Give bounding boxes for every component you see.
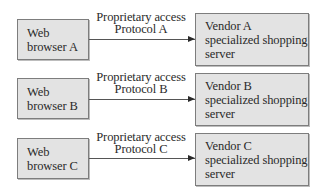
server-label-line3: server <box>205 47 308 61</box>
web-browser-c-box: Web browser C <box>17 138 89 179</box>
protocol-a-label: Proprietary access Protocol A <box>89 11 193 35</box>
vendor-c-server-box: Vendor C specialized shopping server <box>195 133 309 186</box>
link-label-line2: Protocol A <box>89 23 193 35</box>
server-label-line3: server <box>205 107 308 121</box>
server-label-line2: specialized shopping <box>205 33 308 47</box>
arrow-right-icon <box>89 99 195 100</box>
browser-label-line2: browser B <box>27 99 88 113</box>
vendor-b-server-box: Vendor B specialized shopping server <box>195 73 309 126</box>
browser-label-line2: browser A <box>27 40 88 54</box>
protocol-c-label: Proprietary access Protocol C <box>89 131 193 155</box>
server-label-line1: Vendor A <box>205 19 308 33</box>
server-label-line2: specialized shopping <box>205 93 308 107</box>
browser-label-line1: Web <box>27 26 88 40</box>
browser-label-line1: Web <box>27 85 88 99</box>
browser-label-line2: browser C <box>27 159 88 173</box>
arrow-right-icon <box>89 39 195 40</box>
protocol-b-label: Proprietary access Protocol B <box>89 71 193 95</box>
server-label-line2: specialized shopping <box>205 153 308 167</box>
link-label-line2: Protocol C <box>89 143 193 155</box>
web-browser-b-box: Web browser B <box>17 78 89 119</box>
browser-label-line1: Web <box>27 145 88 159</box>
vendor-a-server-box: Vendor A specialized shopping server <box>195 13 309 66</box>
server-label-line3: server <box>205 167 308 181</box>
link-label-line2: Protocol B <box>89 83 193 95</box>
arrow-right-icon <box>89 158 195 159</box>
web-browser-a-box: Web browser A <box>17 19 89 60</box>
server-label-line1: Vendor C <box>205 139 308 153</box>
server-label-line1: Vendor B <box>205 79 308 93</box>
